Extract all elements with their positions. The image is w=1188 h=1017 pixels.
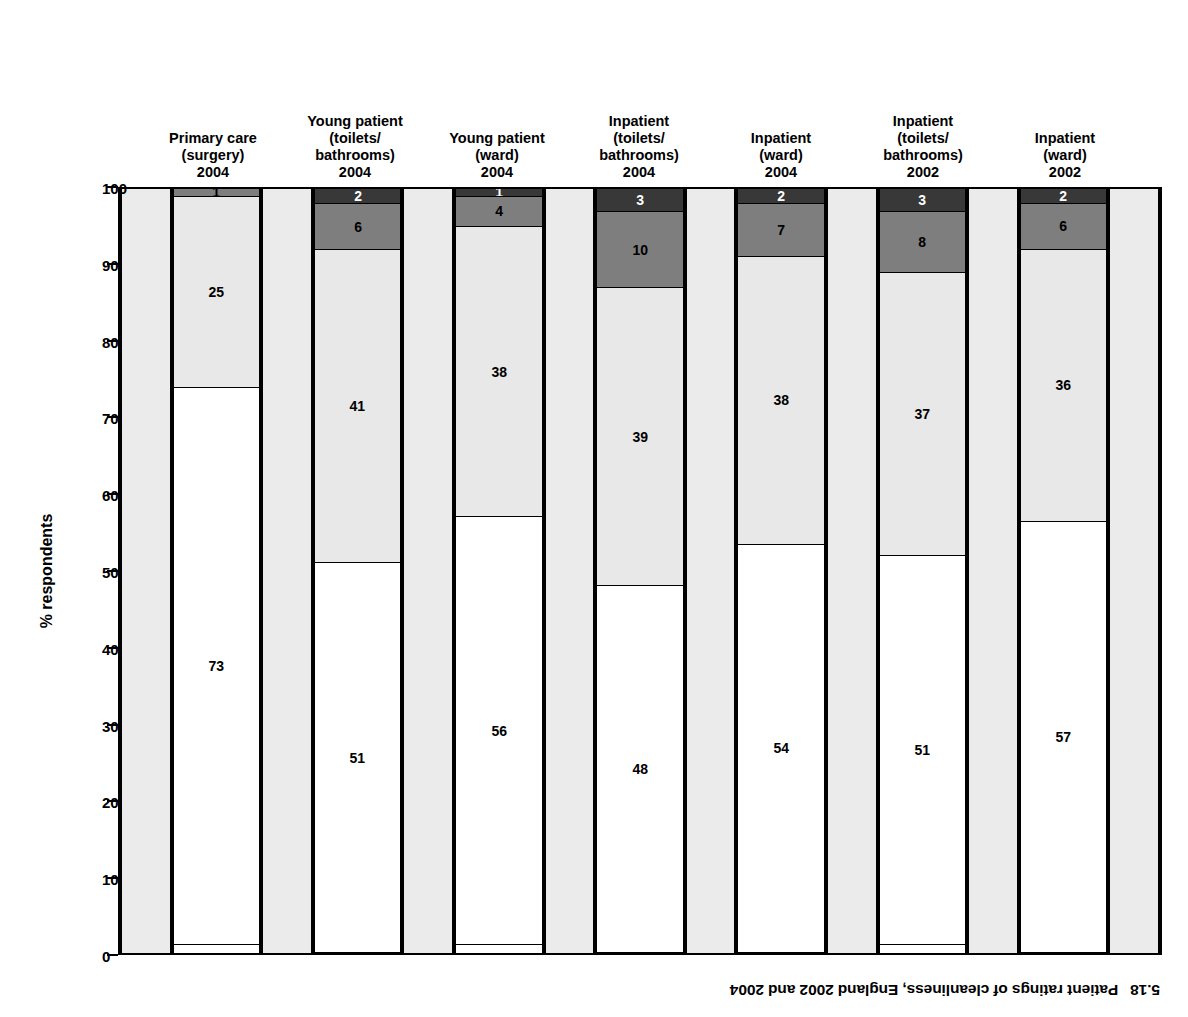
bar-segment-value: 54: [773, 741, 789, 755]
category-label-text: Inpatient(ward)2002: [1035, 130, 1095, 181]
bar-segment-fairly-clean: 25: [174, 197, 259, 388]
category-label-spacer: [684, 65, 736, 185]
category-label-text: Inpatient(ward)2004: [751, 130, 811, 181]
category-label-line: (ward): [449, 147, 545, 164]
bar-segment-very-clean: 54: [738, 545, 823, 953]
bar-segment-value: 37: [915, 407, 931, 421]
category-label-line: 2004: [599, 164, 679, 181]
bar-segment-value: 38: [491, 365, 507, 379]
bar-segment-value: 8: [918, 235, 926, 249]
category-label-young-patient-ward-2004: Young patient(ward)2004: [452, 65, 542, 185]
bar-segment-value: 1: [213, 189, 221, 197]
bar-gap-band: [261, 189, 313, 953]
category-label-spacer: [826, 65, 878, 185]
category-label-line: 2002: [883, 164, 963, 181]
bar-segment-value: 36: [1056, 378, 1072, 392]
category-labels: Inpatient(ward)2002Inpatient(toilets/bat…: [118, 65, 1162, 185]
bar-segment-value: 25: [209, 285, 225, 299]
category-label-line: (toilets/: [599, 130, 679, 147]
category-label-line: 2002: [1035, 164, 1095, 181]
y-axis-tick-label: 90: [102, 257, 119, 274]
stacked-bar-inpatient-toilets-2002[interactable]: 383751: [878, 189, 967, 953]
bar-segment-very-clean: 51: [880, 556, 965, 946]
category-label-line: (ward): [751, 147, 811, 164]
bar-segment-not-very-clean: 8: [880, 212, 965, 273]
category-label-young-patient-toilets-2004: Young patient(toilets/bathrooms)2004: [310, 65, 400, 185]
bar-segment-not-at-all-clean: 1: [456, 189, 541, 197]
bar-segment-value: 2: [777, 189, 785, 203]
bar-segment-value: 2: [1060, 189, 1068, 203]
bar-segment-not-very-clean: 7: [738, 204, 823, 257]
bar-gap-band: [120, 189, 172, 953]
bar-gap-band: [1108, 189, 1160, 953]
stacked-bar-inpatient-ward-2004[interactable]: 273854: [736, 189, 825, 953]
caption-number: 5.18: [1130, 982, 1160, 999]
category-label-line: Inpatient: [1035, 130, 1095, 147]
y-axis-tick-label: 30: [102, 718, 119, 735]
y-axis-title-text: % respondents: [38, 514, 56, 629]
bar-gap-band: [685, 189, 737, 953]
plot-area: 2636573837512738543103948143856264151125…: [118, 187, 1162, 955]
bar-segment-value: 41: [350, 399, 366, 413]
bar-gap-band: [402, 189, 454, 953]
category-label-line: Primary care: [169, 130, 257, 147]
bar-segment-not-very-clean: 6: [1021, 204, 1106, 249]
bar-segment-very-clean: 56: [456, 517, 541, 945]
y-axis-tick-label: 40: [102, 641, 119, 658]
stacked-bar-young-patient-toilets-2004[interactable]: 264151: [313, 189, 402, 953]
bar-segment-very-clean: 48: [597, 586, 682, 953]
bar-segment-value: 51: [915, 743, 931, 757]
bar-segment-not-at-all-clean: 3: [880, 189, 965, 212]
category-label-inpatient-toilets-2002: Inpatient(toilets/bathrooms)2002: [878, 65, 968, 185]
bar-segment-fairly-clean: 39: [597, 288, 682, 586]
bar-segment-value: 56: [491, 724, 507, 738]
bar-segment-not-at-all-clean: 2: [738, 189, 823, 204]
figure-root: 5.18Patient ratings of cleanliness, Engl…: [0, 0, 1188, 1017]
bar-segment-value: 3: [918, 193, 926, 207]
category-label-text: Young patient(ward)2004: [449, 130, 545, 181]
bar-segment-very-clean: 57: [1021, 522, 1106, 953]
category-label-inpatient-toilets-2004: Inpatient(toilets/bathrooms)2004: [594, 65, 684, 185]
bar-segment-very-clean: 51: [315, 563, 400, 953]
stacked-bar-inpatient-ward-2002[interactable]: 263657: [1019, 189, 1108, 953]
y-axis-tick-label: 60: [102, 487, 119, 504]
bar-segment-fairly-clean: 38: [456, 227, 541, 517]
category-label-spacer: [400, 65, 452, 185]
stacked-bar-primary-care-surgery-2004[interactable]: 12573: [172, 189, 261, 953]
bar-gap-band: [826, 189, 878, 953]
bar-segment-not-very-clean: 4: [456, 197, 541, 228]
y-axis-tick-label: 10: [102, 871, 119, 888]
category-label-text: Inpatient(toilets/bathrooms)2002: [883, 113, 963, 181]
y-axis-tick-label: 20: [102, 794, 119, 811]
category-label-spacer: [968, 65, 1020, 185]
y-axis-tick-label: 0: [102, 948, 110, 965]
bar-segment-not-at-all-clean: 2: [315, 189, 400, 204]
category-label-line: bathrooms): [599, 147, 679, 164]
stacked-bar-inpatient-toilets-2004[interactable]: 3103948: [595, 189, 684, 953]
y-axis-tick-label: 80: [102, 334, 119, 351]
bar-segment-not-very-clean: 10: [597, 212, 682, 288]
bar-segment-not-at-all-clean: 2: [1021, 189, 1106, 204]
figure-caption: 5.18Patient ratings of cleanliness, Engl…: [730, 981, 1160, 999]
bar-segment-fairly-clean: 38: [738, 257, 823, 544]
bar-segment-value: 7: [777, 223, 785, 237]
category-label-text: Young patient(toilets/bathrooms)2004: [307, 113, 403, 181]
bar-gap-band: [544, 189, 596, 953]
y-axis-tick-label: 70: [102, 410, 119, 427]
category-label-spacer: [116, 65, 168, 185]
y-axis: 0102030405060708090100: [66, 187, 118, 955]
bar-segment-value: 3: [636, 193, 644, 207]
category-label-line: 2004: [307, 164, 403, 181]
bar-segment-value: 6: [1060, 219, 1068, 233]
category-label-line: (surgery): [169, 147, 257, 164]
bar-segment-value: 57: [1056, 730, 1072, 744]
bar-segment-value: 39: [632, 430, 648, 444]
bar-segment-value: 48: [632, 762, 648, 776]
category-label-line: bathrooms): [883, 147, 963, 164]
bar-segment-fairly-clean: 37: [880, 273, 965, 556]
stacked-bar-young-patient-ward-2004[interactable]: 143856: [454, 189, 543, 953]
bar-segment-very-clean: 73: [174, 388, 259, 946]
bar-segment-not-very-clean: 6: [315, 204, 400, 250]
bar-gap-band: [967, 189, 1019, 953]
category-label-inpatient-ward-2004: Inpatient(ward)2004: [736, 65, 826, 185]
